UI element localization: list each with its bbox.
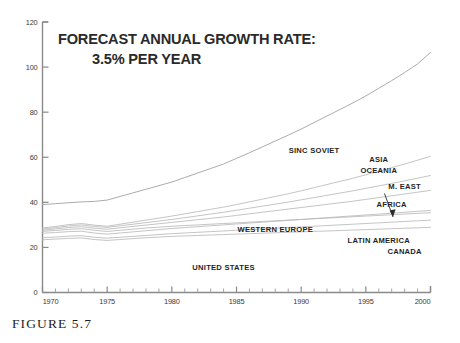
x-tick-label: 1975 <box>99 297 115 306</box>
series-label: UNITED STATES <box>192 263 254 272</box>
series-label: AFRICA <box>377 200 407 209</box>
series-label: M. EAST <box>388 182 421 191</box>
line-chart: 020406080100120 197019751980198519901995… <box>0 0 460 343</box>
x-tick-label: 1980 <box>164 297 180 306</box>
series-inline-labels: SINC SOVIETASIAOCEANIAM. EASTAFRICAWESTE… <box>192 146 422 272</box>
x-tick-label: 1995 <box>358 297 374 306</box>
x-axis-tick-labels: 1970197519801985199019952000 <box>43 297 431 306</box>
y-axis-tick-labels: 020406080100120 <box>26 18 38 298</box>
x-tick-label: 1985 <box>229 297 245 306</box>
series-label: OCEANIA <box>360 166 397 175</box>
figure-caption: FIGURE 5.7 <box>12 316 92 332</box>
series-label: SINC SOVIET <box>289 146 340 155</box>
y-tick-label: 20 <box>30 243 38 252</box>
series-label: LATIN AMERICA <box>348 236 411 245</box>
series-line <box>43 52 431 204</box>
series-label: CANADA <box>387 247 422 256</box>
series-label: ASIA <box>369 155 388 164</box>
chart-subtitle: 3.5% PER YEAR <box>92 51 202 67</box>
x-tick-label: 1970 <box>43 297 59 306</box>
y-tick-label: 40 <box>30 198 38 207</box>
series-line <box>43 176 431 230</box>
y-tick-label: 0 <box>34 288 38 297</box>
y-tick-label: 100 <box>26 63 38 72</box>
x-tick-label: 1990 <box>293 297 309 306</box>
series-lines <box>43 52 431 240</box>
series-label: WESTERN EUROPE <box>237 225 313 234</box>
y-tick-label: 120 <box>26 18 38 27</box>
y-tick-label: 60 <box>30 153 38 162</box>
y-tick-label: 80 <box>30 108 38 117</box>
figure-container: 020406080100120 197019751980198519901995… <box>0 0 460 343</box>
x-axis-major-ticks <box>43 287 431 293</box>
x-tick-label: 2000 <box>415 297 431 306</box>
chart-title: FORECAST ANNUAL GROWTH RATE: <box>58 31 316 47</box>
y-axis-ticks <box>43 22 49 293</box>
chart-title-group: FORECAST ANNUAL GROWTH RATE: 3.5% PER YE… <box>58 31 316 67</box>
